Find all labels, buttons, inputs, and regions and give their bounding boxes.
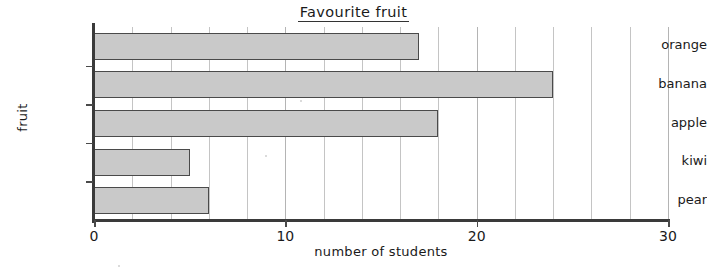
y-axis-tick — [86, 104, 93, 106]
chart-title-text: Favourite fruit — [298, 4, 410, 22]
category-label-pear: pear — [627, 192, 707, 207]
chart-title: Favourite fruit — [0, 4, 707, 22]
x-axis-tick-label: 0 — [64, 228, 124, 244]
plot-area — [94, 27, 668, 220]
bar-pear — [94, 187, 209, 214]
gridline — [438, 27, 439, 220]
bar-chart: Favourite fruit orangebananaapplekiwipea… — [0, 0, 707, 274]
scan-speck — [118, 265, 120, 267]
gridline — [591, 27, 592, 220]
y-axis-tick — [86, 181, 93, 183]
bar-orange — [94, 33, 419, 60]
x-axis-tick — [668, 220, 670, 227]
bar-apple — [94, 110, 438, 137]
y-axis-tick — [86, 143, 93, 145]
y-axis-line — [92, 23, 95, 223]
gridline — [477, 27, 478, 220]
scan-speck — [300, 100, 302, 102]
x-axis-tick — [94, 220, 96, 227]
y-axis-tick — [86, 66, 93, 68]
gridline — [515, 27, 516, 220]
x-axis-tick-label: 10 — [255, 228, 315, 244]
category-label-banana: banana — [627, 76, 707, 91]
category-label-orange: orange — [627, 37, 707, 52]
x-axis-tick — [477, 220, 479, 227]
x-axis-tick-label: 30 — [638, 228, 698, 244]
category-label-kiwi: kiwi — [627, 153, 707, 168]
scan-speck — [265, 155, 267, 157]
x-axis-tick — [285, 220, 287, 227]
x-axis-tick-label: 20 — [447, 228, 507, 244]
category-label-apple: apple — [627, 115, 707, 130]
gridline — [553, 27, 554, 220]
bar-kiwi — [94, 149, 190, 176]
x-axis-line — [92, 219, 670, 222]
bar-banana — [94, 71, 553, 98]
y-axis-title: fruit — [15, 88, 30, 148]
x-axis-title: number of students — [94, 244, 668, 259]
